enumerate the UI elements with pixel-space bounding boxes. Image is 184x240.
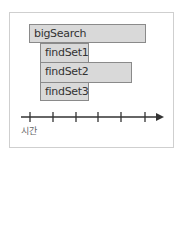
axis-label-time: 시간 xyxy=(21,124,37,137)
arrow-right-icon xyxy=(156,113,164,121)
